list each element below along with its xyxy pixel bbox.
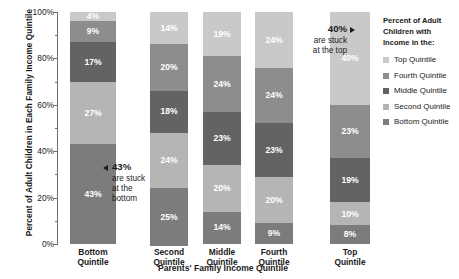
legend-item[interactable]: Second Quintile — [383, 103, 459, 111]
legend-item[interactable]: Top Quintile — [383, 56, 459, 64]
annotation-stuck-at-bottom: 43% are stuck at the bottom — [112, 161, 166, 205]
legend-item-label: Top Quintile — [394, 56, 436, 64]
bar-segment-value: 23% — [213, 134, 230, 143]
legend-item[interactable]: Bottom Quintile — [383, 118, 459, 126]
y-tick-major — [53, 198, 58, 199]
bar-segment[interactable]: 24% — [255, 68, 293, 124]
annotation-arrow-left-icon — [103, 165, 108, 171]
bar-segment[interactable]: 19% — [330, 158, 370, 202]
bar-segment-value: 10% — [341, 210, 358, 219]
stacked-bar: 4%9%17%27%43% — [70, 12, 116, 244]
y-tick-label: 100% — [20, 7, 54, 17]
bar-segment-value: 24% — [213, 80, 230, 89]
legend-title-line-3: Income in the: — [383, 38, 459, 49]
bar-group-fourth[interactable]: 24%24%23%20%9%FourthQuintile — [255, 12, 293, 244]
bar-segment[interactable]: 20% — [203, 165, 241, 211]
bar-segment[interactable]: 27% — [70, 82, 116, 145]
bar-segment-value: 23% — [265, 146, 282, 155]
y-tick-minor — [55, 35, 58, 36]
bar-segment[interactable]: 17% — [70, 42, 116, 81]
y-tick-label: 80% — [20, 53, 54, 63]
annotation-bottom-headline: 43% — [112, 161, 166, 173]
legend-title: Percent of Adult Children with Income in… — [383, 16, 459, 48]
bar-segment-value: 24% — [265, 36, 282, 45]
bar-segment-value: 20% — [213, 184, 230, 193]
bar-segment-value: 14% — [160, 24, 177, 33]
legend-title-line-2: Children with — [383, 27, 459, 38]
bar-segment-value: 19% — [341, 176, 358, 185]
y-tick-minor — [55, 82, 58, 83]
legend-item[interactable]: Middle Quintile — [383, 87, 459, 95]
bar-segment-value: 17% — [84, 58, 101, 67]
y-axis-tick-labels: 0%20%40%60%80%100% — [20, 12, 54, 244]
annotation-top-headline: 40% — [290, 23, 347, 35]
legend-swatch-icon — [383, 104, 389, 110]
y-tick-major — [53, 151, 58, 152]
stacked-bar: 24%24%23%20%9% — [255, 12, 293, 244]
bar-segment[interactable]: 9% — [255, 223, 293, 244]
y-tick-minor — [55, 128, 58, 129]
bar-segment-value: 4% — [87, 12, 99, 21]
bar-segment[interactable]: 14% — [203, 212, 241, 244]
annotation-stuck-at-top: 40% are stuck at the top — [290, 23, 347, 56]
bar-segment[interactable]: 23% — [203, 112, 241, 165]
bar-segment-value: 25% — [160, 213, 177, 222]
bar-segment-value: 9% — [87, 27, 99, 36]
annotation-bottom-line-2: at the — [112, 184, 166, 194]
y-tick-major — [53, 58, 58, 59]
bar-segment-value: 20% — [265, 196, 282, 205]
bar-segment-value: 8% — [344, 230, 356, 239]
y-tick-label: 40% — [20, 146, 54, 156]
legend-item-label: Middle Quintile — [394, 87, 447, 95]
bar-segment-value: 27% — [84, 109, 101, 118]
bar-segment[interactable]: 18% — [150, 91, 188, 133]
bar-segment-value: 18% — [160, 107, 177, 116]
y-tick-label: 20% — [20, 193, 54, 203]
legend-item-label: Fourth Quintile — [394, 72, 446, 80]
bar-segment-value: 43% — [84, 190, 101, 199]
stacked-bar-chart: Percent of Adult Children in Each Family… — [0, 0, 459, 279]
bar-segment[interactable]: 9% — [70, 21, 116, 42]
y-tick-label: 0% — [20, 239, 54, 249]
stacked-bar: 14%20%18%24%25% — [150, 12, 188, 244]
annotation-bottom-line-1: are stuck — [112, 174, 166, 184]
bar-segment-value: 14% — [213, 223, 230, 232]
bar-segment[interactable]: 23% — [330, 105, 370, 158]
bar-group-second[interactable]: 14%20%18%24%25%SecondQuintile — [150, 12, 188, 244]
bar-segment[interactable]: 43% — [70, 144, 116, 244]
bar-segment[interactable]: 14% — [150, 12, 188, 44]
bar-segment[interactable]: 20% — [255, 177, 293, 223]
y-tick-label: 60% — [20, 100, 54, 110]
legend-swatch-icon — [383, 57, 389, 63]
annotation-top-line-1: are stuck — [290, 36, 347, 46]
legend-items: Top QuintileFourth QuintileMiddle Quinti… — [383, 56, 459, 126]
y-tick-minor — [55, 174, 58, 175]
bar-segment[interactable]: 24% — [203, 56, 241, 112]
bar-group-bottom[interactable]: 4%9%17%27%43%BottomQuintile — [70, 12, 116, 244]
legend-swatch-icon — [383, 119, 389, 125]
y-tick-major — [53, 244, 58, 245]
bar-segment[interactable]: 4% — [70, 12, 116, 21]
bar-segment[interactable]: 8% — [330, 225, 370, 244]
bar-segment[interactable]: 24% — [255, 12, 293, 68]
legend-item-label: Bottom Quintile — [394, 118, 449, 126]
y-tick-major — [53, 105, 58, 106]
bar-segment[interactable]: 10% — [330, 202, 370, 225]
bar-segment-value: 24% — [265, 91, 282, 100]
legend-item[interactable]: Fourth Quintile — [383, 72, 459, 80]
bar-segment[interactable]: 20% — [150, 44, 188, 90]
bar-segment[interactable]: 23% — [255, 123, 293, 176]
stacked-bar: 19%24%23%20%14% — [203, 12, 241, 244]
legend-swatch-icon — [383, 73, 389, 79]
bar-segment[interactable]: 19% — [203, 12, 241, 56]
legend-swatch-icon — [383, 88, 389, 94]
bar-segment-value: 20% — [160, 63, 177, 72]
bar-group-middle[interactable]: 19%24%23%20%14%MiddleQuintile — [203, 12, 241, 244]
annotation-arrow-right-icon — [350, 27, 355, 33]
chart-legend: Percent of Adult Children with Income in… — [383, 16, 459, 134]
bar-segment-value: 19% — [213, 30, 230, 39]
annotation-top-line-2: at the top — [290, 46, 347, 56]
y-tick-major — [53, 12, 58, 13]
x-axis-title: Parents' Family Income Quintile — [58, 263, 388, 273]
legend-title-line-1: Percent of Adult — [383, 16, 459, 27]
